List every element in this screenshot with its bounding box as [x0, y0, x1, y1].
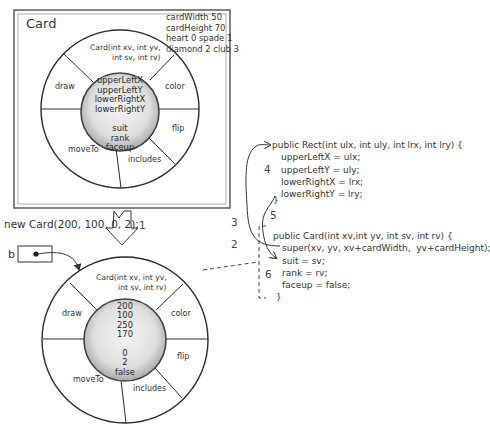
- rect-constructor-close: }: [273, 194, 279, 206]
- constant-item: heart 0 spade 1: [166, 33, 239, 44]
- field-name: lowerRightY: [86, 105, 154, 115]
- step-5-label: 5: [270, 209, 277, 221]
- code-line: suit = sv;: [273, 255, 490, 267]
- instantiation-statement: new Card(200, 100, 0, 2);: [4, 218, 139, 230]
- constructor-label-line1: Card(int xv, int yv,: [90, 43, 161, 53]
- instance-method-flip: flip: [177, 352, 189, 361]
- instance-constructor-label: Card(int xv, int yv, int sv, int rv): [96, 273, 167, 293]
- instance-field-values: 200 100 250 170 0 2 false: [95, 302, 155, 377]
- step-4-label: 4: [264, 163, 271, 175]
- constructor-label-line2: int sv, int rv): [90, 53, 161, 63]
- card-constructor-code: public Card(int xv,int yv, int sv, int r…: [273, 230, 490, 304]
- instance-method-color: color: [171, 309, 191, 318]
- code-line: }: [273, 291, 490, 303]
- reference-variable-name: b: [8, 248, 15, 261]
- reference-box: [18, 246, 52, 262]
- constructor-label-line2: int sv, int rv): [96, 283, 167, 293]
- instance-method-includes: includes: [133, 384, 166, 393]
- class-constructor-label: Card(int xv, int yv, int sv, int rv): [90, 43, 161, 63]
- code-line: lowerRightX = lrx;: [272, 176, 463, 188]
- code-line: upperLeftX = ulx;: [272, 151, 463, 163]
- step-2-label: 2: [231, 238, 238, 250]
- code-line: public Card(int xv,int yv, int sv, int r…: [273, 230, 490, 242]
- rect-constructor-code: public Rect(int ulx, int uly, int lrx, i…: [272, 139, 463, 200]
- code-line: public Rect(int ulx, int uly, int lrx, i…: [272, 139, 463, 151]
- class-method-flip: flip: [172, 124, 184, 133]
- constructor-bracket: [259, 226, 266, 298]
- class-constants: cardWidth 50 cardHeight 70 heart 0 spade…: [166, 12, 239, 54]
- class-fields: upperLeftX upperLeftY lowerRightX lowerR…: [86, 76, 154, 153]
- code-line: upperLeftY = uly;: [272, 164, 463, 176]
- field-value: false: [95, 368, 155, 377]
- step-1-label: 1: [139, 219, 146, 231]
- code-line: super(xv, yv, xv+cardWidth, yv+cardHeigh…: [273, 242, 490, 254]
- class-method-draw: draw: [55, 82, 75, 91]
- class-title: Card: [26, 16, 56, 31]
- step-6-label: 6: [265, 268, 272, 280]
- code-line: rank = rv;: [273, 267, 490, 279]
- field-value: 170: [95, 330, 155, 339]
- constant-item: cardHeight 70: [166, 23, 239, 34]
- class-method-color: color: [165, 82, 185, 91]
- class-method-includes: includes: [128, 155, 161, 164]
- constant-item: diamond 2 club 3: [166, 44, 239, 55]
- constructor-label-line1: Card(int xv, int yv,: [96, 273, 167, 283]
- code-line: lowerRightY = lry;: [272, 188, 463, 200]
- instance-method-draw: draw: [62, 309, 82, 318]
- code-line: faceup = false;: [273, 279, 490, 291]
- step-3-label: 3: [231, 216, 238, 228]
- dashed-connector: [203, 262, 258, 270]
- constant-item: cardWidth 50: [166, 12, 239, 23]
- field-name: faceup: [86, 143, 154, 153]
